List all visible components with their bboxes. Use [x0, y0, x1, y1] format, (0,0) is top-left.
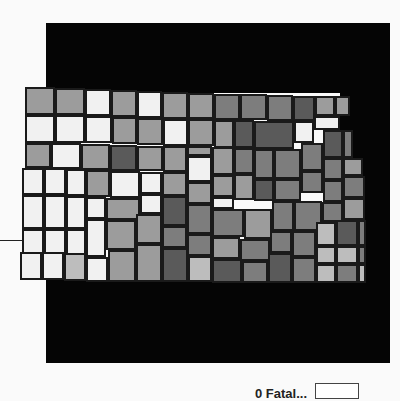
county: [162, 92, 188, 119]
county: [268, 253, 292, 283]
county: [140, 172, 162, 194]
county: [322, 202, 343, 222]
county: [270, 231, 292, 253]
county: [187, 204, 212, 234]
legend: 0 Fatal...: [255, 383, 359, 397]
county: [244, 209, 272, 239]
county: [44, 195, 66, 229]
county: [323, 130, 343, 158]
county: [136, 214, 162, 244]
county: [214, 94, 240, 120]
county: [212, 147, 234, 175]
county: [336, 246, 358, 264]
county: [292, 257, 316, 283]
county: [162, 226, 187, 248]
county: [274, 179, 301, 201]
county: [212, 197, 234, 209]
county: [42, 252, 64, 280]
county: [254, 179, 274, 201]
county: [137, 91, 162, 118]
county: [358, 264, 366, 283]
county: [234, 120, 254, 148]
county: [25, 143, 51, 168]
county: [234, 174, 254, 200]
county: [81, 144, 110, 170]
county: [212, 259, 242, 283]
county: [242, 261, 268, 283]
county: [137, 146, 163, 171]
county: [55, 88, 85, 115]
county: [240, 239, 270, 261]
county: [292, 231, 316, 257]
county: [323, 158, 343, 180]
county: [187, 234, 212, 256]
county: [106, 220, 136, 250]
county: [316, 246, 336, 264]
county: [254, 149, 274, 179]
county: [85, 89, 111, 116]
county: [64, 253, 86, 281]
county: [86, 257, 108, 282]
county: [106, 198, 140, 220]
county: [136, 244, 162, 282]
legend-swatch-zero: [315, 383, 359, 399]
county: [301, 171, 323, 193]
county: [343, 130, 353, 158]
county: [212, 237, 240, 259]
county: [343, 158, 363, 176]
county: [55, 115, 85, 143]
county: [188, 93, 214, 119]
county: [316, 264, 336, 283]
county: [214, 120, 234, 148]
county: [22, 195, 44, 229]
county: [108, 250, 136, 282]
county: [51, 143, 81, 169]
county: [140, 194, 162, 214]
county: [315, 96, 335, 116]
county: [187, 156, 212, 182]
county: [86, 219, 106, 257]
county: [163, 146, 187, 172]
county: [212, 209, 244, 237]
county: [66, 169, 86, 196]
county: [162, 248, 188, 282]
county: [267, 95, 293, 121]
county: [336, 220, 358, 246]
county: [110, 171, 140, 198]
county: [294, 121, 314, 143]
county: [188, 119, 214, 146]
county: [85, 116, 112, 143]
county: [25, 87, 55, 115]
county: [293, 96, 315, 121]
county: [335, 96, 350, 116]
county: [316, 222, 336, 246]
county: [110, 145, 137, 171]
county: [162, 196, 187, 226]
county: [187, 182, 212, 204]
leader-line: [0, 240, 22, 241]
county: [272, 201, 294, 231]
county: [22, 168, 44, 195]
legend-label: 0 Fatal...: [255, 387, 307, 401]
county: [314, 116, 340, 130]
county: [336, 264, 358, 283]
county: [240, 94, 267, 120]
county: [163, 119, 188, 146]
county: [188, 256, 212, 282]
county: [212, 175, 234, 197]
county: [86, 170, 110, 197]
county: [234, 148, 254, 174]
county: [112, 117, 137, 144]
county: [323, 180, 343, 202]
county: [187, 146, 212, 156]
county: [162, 172, 187, 196]
county: [25, 115, 55, 143]
county: [343, 198, 365, 220]
county: [137, 118, 163, 145]
county: [343, 176, 365, 198]
county: [66, 196, 86, 229]
county: [254, 121, 294, 149]
county: [86, 197, 106, 219]
county: [358, 246, 366, 264]
